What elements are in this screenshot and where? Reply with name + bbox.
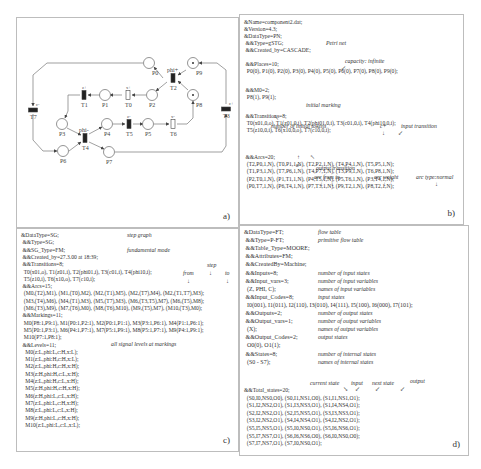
flow-table-code: I0(001), I1(011), I2(110), I3(010), I4(1… — [244, 302, 413, 309]
transition-label: T7 — [30, 114, 37, 120]
transition-label: T6 — [170, 131, 177, 137]
flow-table-code: &DataType=FT; — [244, 229, 284, 236]
transition-t6[interactable] — [171, 120, 175, 129]
place-p2[interactable] — [147, 90, 158, 101]
signal-label: z- — [127, 114, 131, 119]
flow-table-code: O0(0), O1(1); — [244, 342, 280, 349]
flow-table-note: number of output states — [318, 310, 373, 316]
listing-line: &&SG_Type=FM; — [21, 247, 65, 254]
transition-t4[interactable] — [83, 134, 87, 143]
flow-table-code: &&Outputs=2; — [244, 310, 282, 317]
transition-t1[interactable] — [82, 91, 86, 100]
listing-line: &&Type=gSTG; — [244, 40, 283, 47]
listing-line: (P0,T7,1,N), (P6,T4,1,N), (P7,T3,1,N), (… — [244, 183, 394, 190]
flow-table-note: number of output variables — [318, 318, 381, 324]
listing-line: M6(z:H,phi:L,c:L,x:H); — [21, 393, 78, 400]
transition-label: T5 — [126, 131, 133, 137]
flow-table-note: primitive flow table — [318, 237, 363, 243]
flow-table-note: number of input states — [318, 270, 370, 276]
signal-label: c+ — [229, 101, 234, 106]
listing-line: M3(z:H,phi:H,c:L,x:H); — [21, 371, 79, 378]
transition-label: T3 — [223, 113, 230, 119]
arrow-icon: ↓ — [383, 181, 386, 187]
place-label: P7 — [106, 159, 112, 165]
place-label: P0 — [152, 70, 158, 76]
transition-t3[interactable] — [222, 107, 231, 111]
flow-table-note: flow table — [318, 229, 341, 235]
total-states-line: (S3,I2,NS2,O1), (S4,I4,NS4,O1), (S4,I2,N… — [244, 417, 360, 424]
listing-line: M10(z:L,phi:L,c:L,x:L); — [21, 422, 80, 429]
flow-table-code: (X); — [244, 326, 257, 333]
total-states-line: (S5,I5,NS5,O1), (S5,I0,NS0,O1), (S5,I6,N… — [244, 425, 360, 432]
place-p7[interactable] — [104, 147, 115, 158]
total-states-line: &&Total_states=20; — [244, 387, 290, 394]
place-label: P2 — [149, 102, 155, 108]
annotation-input-transition: input transition — [401, 123, 437, 129]
listing-line: (M0,(T2),M1), (M1,(T0),M2), (M2,(T1),M5)… — [21, 290, 204, 297]
flow-table-note: input states — [318, 294, 345, 300]
arrow-icon: ↓ — [435, 181, 438, 187]
place-label: P9 — [196, 70, 202, 76]
transition-label: T0 — [125, 102, 132, 108]
total-states-line: (S5,I7,NS7,O1), (S6,I6,NS6,O0), (S6,I0,N… — [244, 433, 360, 440]
petri-net-panel: P0P1P2P3P4P5P6P7P8P9T0x+T1z+T2phi+T3c+T4… — [16, 17, 239, 228]
listing-line: &DataType=PN; — [244, 33, 282, 40]
flow-table-note: output states — [318, 334, 347, 340]
flow-table-code: &&CreatedBy=Machine; — [244, 261, 307, 268]
step-graph-panel: &DataType=SG; &&Type=SG; &&SG_Type=FM; &… — [16, 228, 239, 452]
signal-label: c- — [36, 102, 40, 107]
place-label: P6 — [60, 158, 66, 164]
token-icon — [192, 62, 194, 64]
place-label: P8 — [196, 102, 202, 108]
transition-t5[interactable] — [127, 120, 131, 129]
flow-table-note: number of input variables — [318, 278, 378, 284]
annotation-fundamental-mode: fundamental mode — [127, 247, 170, 253]
arrow-icon: ↖ — [310, 154, 315, 160]
arrow-icon: ↙ — [355, 386, 360, 392]
annotation-to: to — [225, 270, 230, 276]
annotation-current-state: current state — [310, 380, 339, 386]
arrow-icon: ↙ — [398, 130, 403, 136]
listing-line: M10(P7:1,P8:1); — [21, 334, 62, 341]
listing-line: &&Created_by=27.3.00 at 18:39; — [21, 254, 98, 261]
signal-label: phi+ — [167, 67, 179, 73]
signal-label: x+ — [126, 85, 131, 90]
place-p6[interactable] — [58, 146, 69, 157]
flow-table-code: &&Output_vars=1; — [244, 318, 293, 325]
listing-line: M0(z:L,phi:L,c:H,x:L); — [21, 349, 78, 356]
transition-t0[interactable] — [126, 91, 130, 100]
listing-line: M1(z:L,phi:H,c:H,x:L); — [21, 356, 78, 363]
place-p4[interactable] — [102, 119, 113, 130]
annotation-arc-type: arc type:normal — [416, 174, 453, 180]
place-p3[interactable] — [57, 119, 68, 130]
flow-table-code: &&Output_Codes=2; — [244, 334, 298, 341]
transition-t2[interactable] — [171, 74, 175, 83]
flow-table-note: names of input variables — [318, 286, 375, 292]
panel-label-c: c) — [223, 435, 230, 445]
place-p5[interactable] — [143, 119, 154, 130]
annotation-output: output — [410, 378, 425, 384]
arrow-icon: ↓ — [226, 278, 229, 284]
listing-line: &&Places=10; — [244, 61, 279, 68]
flow-table-code: &&Attributes=FM; — [244, 253, 293, 260]
listing-line: &Name=component2.dat; — [244, 19, 302, 26]
arrow-icon: ↓ — [187, 278, 190, 284]
listing-line: M9(z:H,phi:L,c:H,x:H); — [21, 415, 79, 422]
annotation-petri-net: Petri net — [326, 40, 346, 46]
transition-label: T2 — [170, 85, 177, 91]
listing-line: &&Arcs=15; — [21, 283, 52, 290]
arrow-icon: ↓ — [331, 181, 334, 187]
listing-line: &&Arcs=20; — [244, 154, 275, 161]
listing-line: &&Transitions=8; — [21, 261, 64, 268]
transition-t7[interactable] — [29, 108, 38, 112]
listing-line: T0(x01,o), T1(z01,i), T2(phi01,i), T3(c0… — [21, 269, 152, 276]
panel-label-d: d) — [453, 439, 461, 449]
arc — [69, 142, 81, 151]
annotation-from: from — [183, 270, 194, 276]
annotation-step-graph: step graph — [127, 232, 152, 238]
arrow-icon: ↖ — [274, 115, 279, 121]
place-p0[interactable] — [144, 58, 155, 69]
petri-net-text-panel: &Name=component2.dat;&Version=4.3;&DataT… — [239, 14, 464, 225]
flow-table-code: &&Input_vars=3; — [244, 278, 289, 285]
place-p1[interactable] — [100, 90, 111, 101]
